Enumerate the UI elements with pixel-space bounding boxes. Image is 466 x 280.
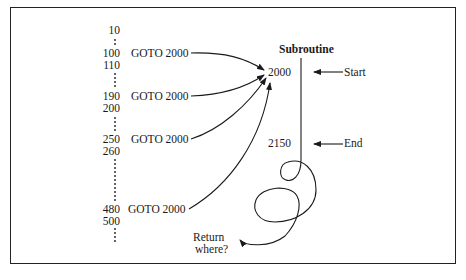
goto-arrow-250 <box>191 78 266 139</box>
diagram-graphics <box>0 0 466 280</box>
goto-arrow-190 <box>191 75 264 96</box>
return-tangle-arrow <box>240 160 316 245</box>
goto-arrow-100 <box>191 53 264 70</box>
ellipsis-dots <box>114 39 116 242</box>
goto-arrow-480 <box>189 83 270 209</box>
